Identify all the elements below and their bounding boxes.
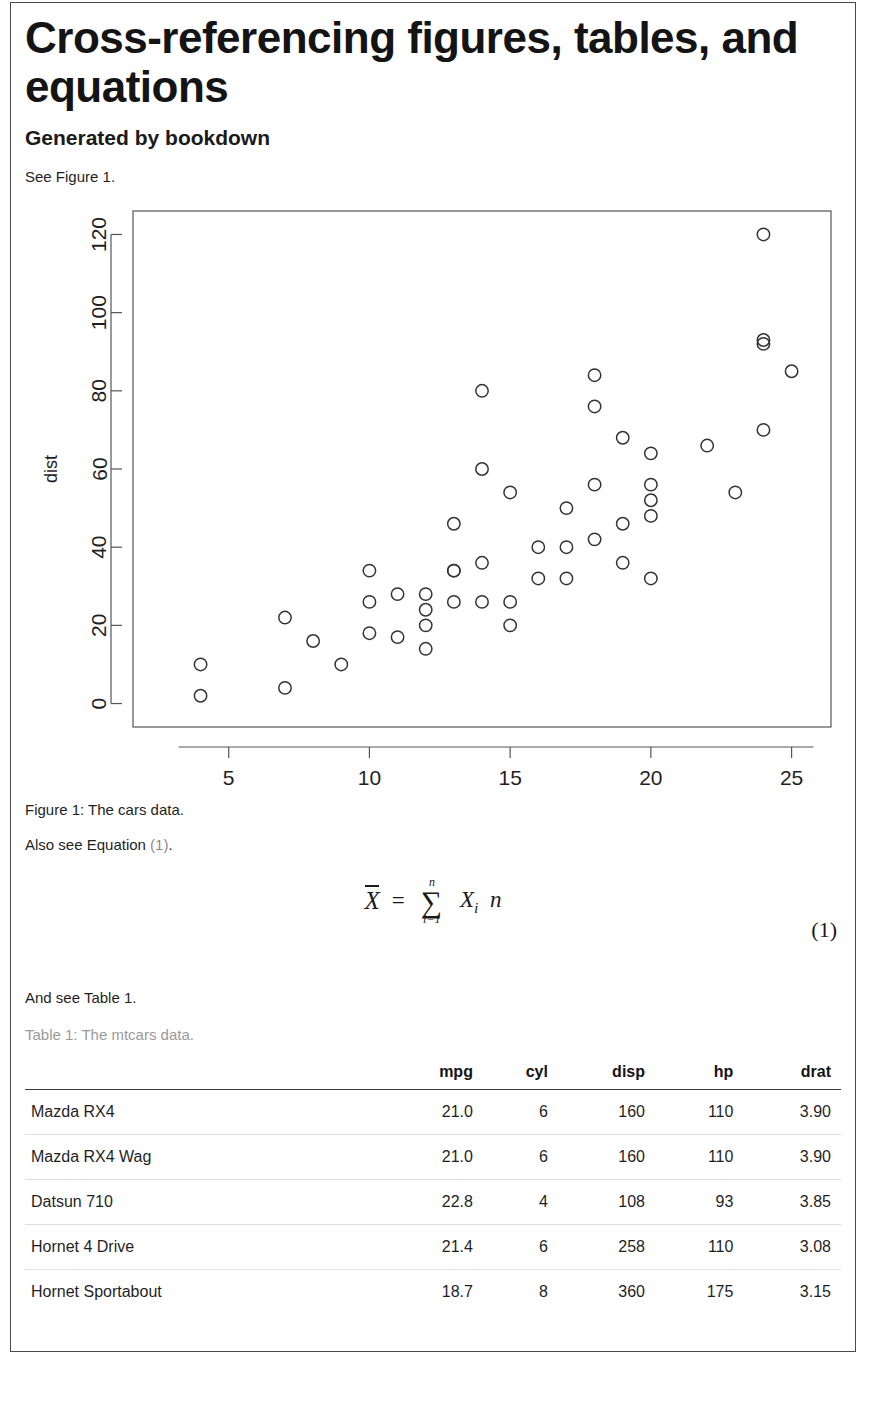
table-cell-cyl: 4 (483, 1179, 558, 1224)
table-cell-disp: 258 (558, 1224, 655, 1269)
data-point (420, 587, 432, 599)
data-point (504, 486, 516, 498)
table-cell-disp: 160 (558, 1134, 655, 1179)
plot-box-border (133, 211, 831, 727)
x-tick-label-5: 5 (223, 766, 235, 789)
data-point (645, 447, 657, 459)
data-point (476, 556, 488, 568)
table-header-drat: drat (743, 1059, 841, 1090)
summation-lower-limit: i=1 (423, 914, 440, 925)
data-point (560, 572, 572, 584)
data-point (335, 658, 347, 670)
equation-numerator: ∑ n i=1 Xi (415, 887, 490, 914)
y-tick-label-80: 80 (88, 379, 111, 402)
table-cell-hp: 110 (655, 1134, 743, 1179)
table-cell-mpg: 18.7 (384, 1269, 483, 1314)
data-point (363, 595, 375, 607)
page-subtitle: Generated by bookdown (25, 126, 841, 150)
data-point (448, 517, 460, 529)
table-cell-cyl: 6 (483, 1224, 558, 1269)
summation-upper-limit: n (429, 877, 435, 888)
data-point (785, 365, 797, 377)
table-cell-rowname: Mazda RX4 (25, 1089, 384, 1134)
table-cell-disp: 360 (558, 1269, 655, 1314)
y-tick-label-40: 40 (88, 535, 111, 558)
data-point (476, 384, 488, 396)
data-point (560, 541, 572, 553)
table-row: Datsun 71022.84108933.85 (25, 1179, 841, 1224)
equation-reference-suffix: . (168, 836, 172, 853)
x-tick-label-15: 15 (498, 766, 521, 789)
table-cell-disp: 108 (558, 1179, 655, 1224)
table-body: Mazda RX421.061601103.90Mazda RX4 Wag21.… (25, 1089, 841, 1314)
equation-summand: Xi (460, 887, 478, 912)
data-point (729, 486, 741, 498)
data-point (420, 619, 432, 631)
document-frame: Cross-referencing figures, tables, and e… (10, 2, 856, 1352)
equation-fraction: ∑ n i=1 Xi n (415, 887, 502, 917)
y-axis-label: dist (41, 455, 61, 483)
data-point (588, 369, 600, 381)
data-point (617, 556, 629, 568)
page-title: Cross-referencing figures, tables, and e… (25, 13, 841, 112)
mtcars-table: mpgcyldisphpdrat Mazda RX421.061601103.9… (25, 1059, 841, 1314)
table-cell-rowname: Datsun 710 (25, 1179, 384, 1224)
data-point (617, 431, 629, 443)
x-tick-label-10: 10 (358, 766, 381, 789)
equation-reference-prefix: Also see Equation (25, 836, 150, 853)
document-content: Cross-referencing figures, tables, and e… (25, 11, 841, 1347)
data-point (476, 462, 488, 474)
data-point (363, 564, 375, 576)
figure-reference-text: See Figure 1. (25, 168, 115, 185)
y-tick-label-100: 100 (88, 295, 111, 330)
table-cell-rowname: Hornet 4 Drive (25, 1224, 384, 1269)
table-cell-hp: 110 (655, 1089, 743, 1134)
table-header-rowname (25, 1059, 384, 1090)
data-point (504, 595, 516, 607)
table-cell-mpg: 21.0 (384, 1089, 483, 1134)
data-point (701, 439, 713, 451)
table-row: Hornet 4 Drive21.462581103.08 (25, 1224, 841, 1269)
paragraph-equation-reference: Also see Equation (1). (25, 836, 841, 853)
table-cell-cyl: 6 (483, 1089, 558, 1134)
scatter-plot: 510152025020406080100120distspeed (25, 199, 843, 799)
equation-body: X = ∑ n i=1 Xi n (25, 887, 841, 917)
table-cell-drat: 3.90 (743, 1089, 841, 1134)
data-point (420, 603, 432, 615)
data-point (391, 630, 403, 642)
data-point (645, 572, 657, 584)
data-point (279, 611, 291, 623)
table-cell-hp: 175 (655, 1269, 743, 1314)
data-point (645, 478, 657, 490)
table-cell-mpg: 21.4 (384, 1224, 483, 1269)
table-cell-drat: 3.90 (743, 1134, 841, 1179)
table-cell-cyl: 6 (483, 1134, 558, 1179)
data-point (194, 658, 206, 670)
equation-number: (1) (811, 917, 837, 943)
data-point (504, 619, 516, 631)
y-tick-label-60: 60 (88, 457, 111, 480)
paragraph-figure-reference: See Figure 1. (25, 168, 841, 185)
data-point (757, 423, 769, 435)
equation-reference-link[interactable]: (1) (150, 836, 168, 853)
summation-icon: ∑ n i=1 (421, 888, 442, 915)
table-cell-rowname: Hornet Sportabout (25, 1269, 384, 1314)
x-tick-label-25: 25 (780, 766, 803, 789)
table-cell-rowname: Mazda RX4 Wag (25, 1134, 384, 1179)
display-equation: X = ∑ n i=1 Xi n (25, 879, 841, 971)
data-point (617, 517, 629, 529)
paragraph-table-reference: And see Table 1. (25, 989, 841, 1006)
table-row: Mazda RX421.061601103.90 (25, 1089, 841, 1134)
y-tick-label-120: 120 (88, 216, 111, 251)
data-point (532, 572, 544, 584)
data-point (588, 478, 600, 490)
data-point (307, 634, 319, 646)
table-cell-hp: 110 (655, 1224, 743, 1269)
data-point (476, 595, 488, 607)
data-point (757, 228, 769, 240)
x-tick-label-20: 20 (639, 766, 662, 789)
table-cell-disp: 160 (558, 1089, 655, 1134)
data-point (448, 595, 460, 607)
table-row: Hornet Sportabout18.783601753.15 (25, 1269, 841, 1314)
figure-caption: Figure 1: The cars data. (25, 801, 841, 818)
